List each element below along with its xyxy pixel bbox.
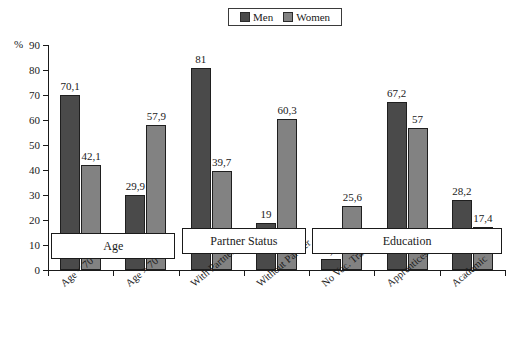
legend-label-men: Men: [253, 12, 273, 23]
y-axis-tick-label-40: 40: [18, 165, 40, 176]
bar-value-label-men-6: 28,2: [445, 186, 479, 197]
x-axis-tick-2: [179, 271, 180, 276]
group-box-education: Education: [312, 228, 502, 254]
group-box-label: Partner Status: [210, 234, 277, 249]
bar-value-label-women-5: 57: [401, 114, 435, 125]
bar-chart-figure: Men Women % 0102030405060708090 70,142,1…: [0, 0, 522, 355]
legend-entry-women: Women: [283, 12, 330, 23]
group-box-label: Age: [103, 239, 123, 254]
y-axis-tick-label-0: 0: [18, 265, 40, 276]
y-axis-tick-label-30: 30: [18, 190, 40, 201]
x-axis-tick-7: [505, 271, 506, 276]
bar-value-label-women-3: 60,3: [270, 105, 304, 116]
bar-value-label-men-0: 70,1: [53, 81, 87, 92]
bar-value-label-women-4: 25,6: [335, 192, 369, 203]
y-axis-tick-label-50: 50: [18, 140, 40, 151]
x-axis-tick-6: [440, 271, 441, 276]
group-box-label: Education: [383, 234, 432, 249]
bar-value-label-men-2: 81: [184, 54, 218, 65]
x-axis-tick-5: [374, 271, 375, 276]
bar-value-label-women-0: 42,1: [74, 151, 108, 162]
chart-legend: Men Women: [228, 8, 342, 26]
group-box-partner-status: Partner Status: [182, 228, 306, 254]
y-axis-tick-label-20: 20: [18, 215, 40, 226]
legend-swatch-women: [283, 12, 293, 22]
legend-swatch-men: [240, 12, 250, 22]
x-axis-tick-3: [244, 271, 245, 276]
legend-entry-men: Men: [240, 12, 273, 23]
bar-value-label-women-1: 57,9: [139, 111, 173, 122]
bar-value-label-women-2: 39,7: [205, 157, 239, 168]
y-axis-tick-label-70: 70: [18, 90, 40, 101]
x-axis-tick-0: [48, 271, 49, 276]
y-axis-tick-label-10: 10: [18, 240, 40, 251]
bar-value-label-men-5: 67,2: [380, 88, 414, 99]
y-axis-tick-label-60: 60: [18, 115, 40, 126]
group-box-age: Age: [51, 233, 175, 259]
x-axis-tick-4: [309, 271, 310, 276]
x-axis-tick-1: [113, 271, 114, 276]
y-axis-labels: 0102030405060708090: [14, 0, 40, 355]
y-axis-tick-label-80: 80: [18, 65, 40, 76]
legend-label-women: Women: [296, 12, 330, 23]
y-axis-tick-label-90: 90: [18, 40, 40, 51]
bar-value-label-women-6: 17,4: [466, 213, 500, 224]
